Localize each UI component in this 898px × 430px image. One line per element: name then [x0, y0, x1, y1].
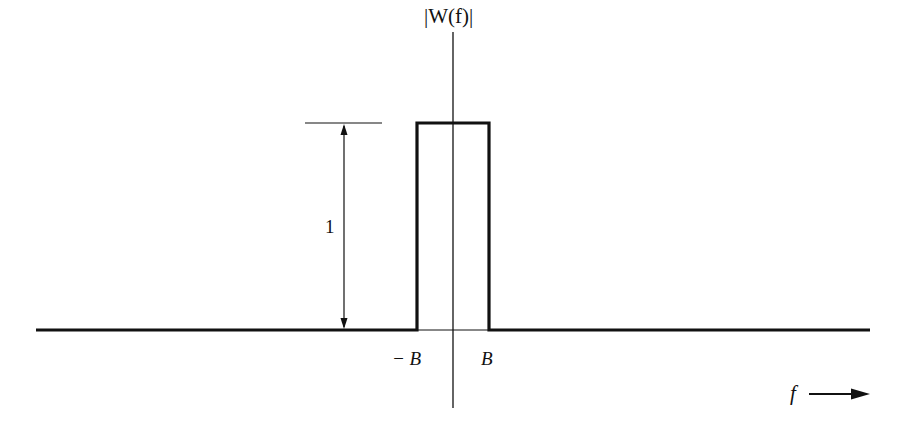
dimension-arrowhead-bottom: [341, 318, 348, 329]
neg-band-edge-label: − B: [392, 348, 421, 370]
frequency-axis-label: f: [790, 381, 796, 406]
spectrum-title: |W(f)|: [424, 4, 473, 29]
spectrum-diagram: [0, 0, 898, 430]
f-direction-arrowhead: [851, 389, 870, 400]
height-label: 1: [325, 216, 335, 238]
dimension-arrowhead-top: [341, 124, 348, 135]
pos-band-edge-label: B: [481, 348, 493, 370]
